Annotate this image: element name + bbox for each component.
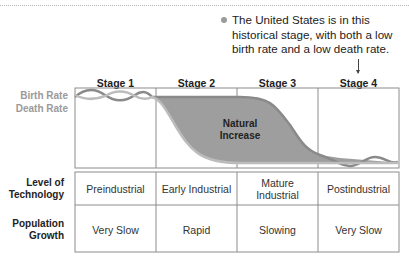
natural-increase-area [152,97,390,163]
row-label-technology: Level of Technology [0,177,64,201]
cell-growth-stage3: Slowing [237,224,318,236]
cell-tech-stage3: Mature Industrial [237,177,318,201]
cell-growth-stage4: Very Slow [318,224,399,236]
cell-tech-stage2: Early Industrial [156,183,237,195]
cell-growth-stage2: Rapid [156,224,237,236]
cell-growth-stage1: Very Slow [75,224,156,236]
cell-tech-stage1: Preindustrial [75,183,156,195]
row-label-growth: Population Growth [0,218,64,242]
natural-increase-label: Natural Increase [210,118,270,142]
cell-tech-stage4: Postindustrial [318,183,399,195]
